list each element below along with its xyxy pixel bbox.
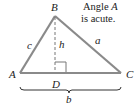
note-line-2: is acute. bbox=[81, 13, 115, 24]
note-prefix: Angle bbox=[83, 1, 111, 12]
right-angle-marker bbox=[55, 62, 66, 72]
side-a bbox=[55, 16, 121, 73]
note-angle-var: A bbox=[110, 1, 118, 12]
vertex-label-c: C bbox=[126, 68, 134, 80]
base-label-b: b bbox=[66, 93, 72, 105]
side-label-a: a bbox=[95, 34, 101, 46]
point-label-d: D bbox=[51, 78, 60, 90]
side-label-c: c bbox=[27, 39, 32, 51]
altitude-label-h: h bbox=[59, 38, 65, 50]
triangle-diagram: B A C D c h a b Angle A is acute. bbox=[0, 0, 139, 109]
vertex-label-a: A bbox=[8, 68, 16, 80]
side-c bbox=[20, 16, 55, 73]
vertex-label-b: B bbox=[51, 1, 58, 13]
note-line-1: Angle A bbox=[83, 1, 118, 12]
